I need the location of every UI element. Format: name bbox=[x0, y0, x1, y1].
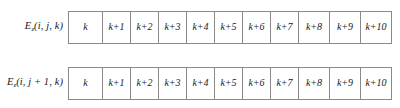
index-cell: k+4 bbox=[187, 68, 215, 99]
index-cell: k+6 bbox=[243, 12, 271, 43]
row-label-ez-ij1k: Ez(i, j + 1, k) bbox=[0, 77, 68, 89]
index-grid-diagram: Ez(i, j, k) k k+1 k+2 k+3 k+4 k+5 k+6 k+… bbox=[0, 0, 400, 108]
index-cell: k+8 bbox=[299, 68, 330, 99]
index-cell: k+5 bbox=[215, 68, 243, 99]
cell-strip: k k+1 k+2 k+3 k+4 k+5 k+6 k+7 k+8 k+9 k+… bbox=[68, 67, 392, 100]
row-label-args: (i, j, k) bbox=[34, 20, 63, 31]
index-cell: k+9 bbox=[330, 12, 361, 43]
index-cell: k bbox=[69, 12, 103, 43]
index-cell: k+7 bbox=[271, 12, 299, 43]
row-label-args: (i, j + 1, k) bbox=[16, 76, 63, 87]
index-cell: k+4 bbox=[187, 12, 215, 43]
grid-row-ez-ijk: Ez(i, j, k) k k+1 k+2 k+3 k+4 k+5 k+6 k+… bbox=[0, 10, 400, 44]
index-cell: k bbox=[69, 68, 103, 99]
index-cell: k+3 bbox=[159, 12, 187, 43]
index-cell: k+2 bbox=[131, 68, 159, 99]
index-cell: k+8 bbox=[299, 12, 330, 43]
grid-row-ez-ij1k: Ez(i, j + 1, k) k k+1 k+2 k+3 k+4 k+5 k+… bbox=[0, 66, 400, 100]
index-cell: k+1 bbox=[103, 68, 131, 99]
cell-strip: k k+1 k+2 k+3 k+4 k+5 k+6 k+7 k+8 k+9 k+… bbox=[68, 11, 392, 44]
index-cell: k+5 bbox=[215, 12, 243, 43]
index-cell: k+10 bbox=[361, 12, 392, 43]
index-cell: k+1 bbox=[103, 12, 131, 43]
index-cell: k+10 bbox=[361, 68, 392, 99]
index-cell: k+2 bbox=[131, 12, 159, 43]
index-cell: k+9 bbox=[330, 68, 361, 99]
index-cell: k+3 bbox=[159, 68, 187, 99]
index-cell: k+7 bbox=[271, 68, 299, 99]
index-cell: k+6 bbox=[243, 68, 271, 99]
row-label-ez-ijk: Ez(i, j, k) bbox=[0, 21, 68, 33]
